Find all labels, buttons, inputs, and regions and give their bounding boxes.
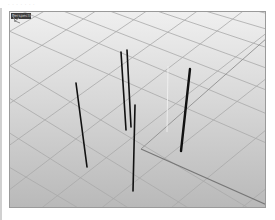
axis-gizmo-icon [10,12,24,26]
perspective-viewport[interactable]: Perspective [9,11,266,208]
construction-grid [10,12,266,208]
pole-4 [133,105,135,191]
left-panel-edge [0,8,2,220]
viewport-scene[interactable] [10,12,266,208]
z-axis-hint [167,66,168,132]
window-title-remnant: · · · · · · · [8,1,35,7]
pole-3 [127,50,131,127]
pole-5 [181,69,190,151]
world-axes [141,38,266,205]
pole-1 [76,83,87,167]
x-axis-line [141,149,266,205]
